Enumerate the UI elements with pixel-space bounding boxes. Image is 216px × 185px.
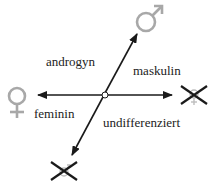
crossed-female-symbol-icon bbox=[181, 86, 207, 105]
label-undifferenziert: undifferenziert bbox=[103, 115, 180, 131]
label-feminin: feminin bbox=[34, 106, 74, 122]
label-maskulin: maskulin bbox=[133, 63, 181, 79]
label-androgyn: androgyn bbox=[46, 54, 95, 70]
male-symbol-icon bbox=[137, 6, 162, 31]
crossed-male-symbol-icon bbox=[51, 162, 77, 180]
origin-point bbox=[102, 92, 108, 98]
gender-axes-diagram bbox=[0, 0, 216, 185]
female-symbol-icon bbox=[9, 88, 25, 118]
